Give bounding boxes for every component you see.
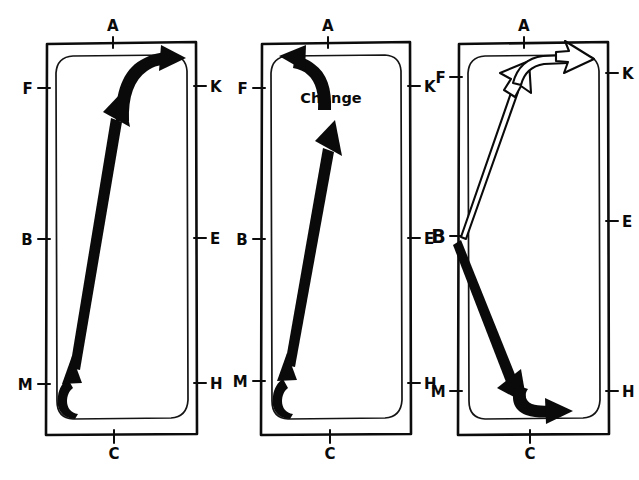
- panel-3-labels: A C F B M K E H: [431, 17, 635, 463]
- diagonal-arrow-down-shaft: [453, 240, 516, 382]
- label-A: A: [518, 17, 530, 35]
- panel-3-frame: [458, 42, 609, 435]
- label-M: M: [431, 383, 446, 401]
- top-hook-arrowhead: [556, 41, 594, 73]
- panel-3-edge-ticks: [450, 37, 618, 443]
- label-B: B: [431, 225, 446, 247]
- inner-rounded-rectangle: [468, 55, 600, 419]
- outer-rectangle: [458, 42, 609, 435]
- diagram-canvas: A C F B M K E H: [0, 0, 639, 480]
- bottom-hook-arrowhead: [545, 398, 573, 424]
- label-E: E: [622, 213, 632, 231]
- label-C: C: [524, 445, 535, 463]
- label-H: H: [622, 383, 635, 401]
- panel-3: A C F B M K E H: [0, 0, 639, 480]
- label-K: K: [622, 65, 635, 83]
- diagonal-arrow-up-shaft: [461, 90, 518, 239]
- label-F: F: [436, 69, 446, 87]
- panel-3-arrows: [453, 41, 594, 424]
